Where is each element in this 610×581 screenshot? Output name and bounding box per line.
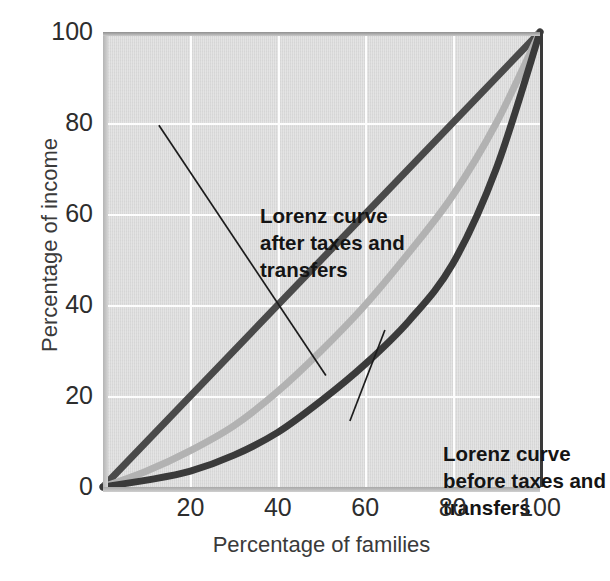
x-tick-label: 60 xyxy=(325,492,405,522)
x-tick-label: 100 xyxy=(500,492,580,522)
y-axis-title: Percentage of income xyxy=(37,65,63,425)
x-tick-label: 20 xyxy=(150,492,230,522)
annotation-lorenz-after-taxes: Lorenz curve after taxes and transfers xyxy=(260,202,445,283)
x-axis-tick-labels: 20406080100 xyxy=(103,492,540,526)
plot-edge-top xyxy=(103,32,540,36)
y-tick-label: 0 xyxy=(3,474,93,499)
x-axis-title: Percentage of families xyxy=(103,532,540,558)
x-tick-label: 80 xyxy=(413,492,493,522)
plot-edge-right xyxy=(540,32,543,487)
x-tick-label: 40 xyxy=(238,492,318,522)
y-tick-label: 100 xyxy=(3,19,93,44)
plot-edge-left xyxy=(103,32,108,487)
plot-area: Lorenz curve after taxes and transfers L… xyxy=(103,32,540,487)
